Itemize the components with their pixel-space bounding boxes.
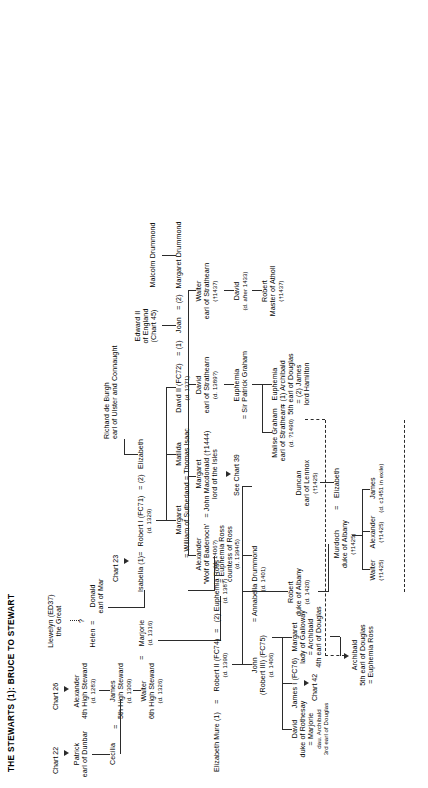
node-margaret-drummond: Margaret Drummond: [176, 218, 184, 292]
sibling-bar-mure: [242, 487, 243, 665]
margaret-drummond-name: Margaret Drummond: [176, 218, 184, 292]
chart-canvas: THE STEWARTS (1): BRUCE TO STEWART Chart…: [0, 0, 428, 788]
node-annabella-drummond: = Annabella Drummond (d. 1401): [252, 528, 267, 622]
robert-ii-death: (d. 1390): [222, 634, 229, 696]
link-richard-to-elizabeth-h: [124, 439, 125, 455]
node-alexander-4th-steward: Alexander 4th High Steward (d. 1283): [74, 658, 97, 724]
chart-ref-26-arrow: [64, 686, 69, 692]
node-margaret-galloway: Margaret lady of Galloway = Archibald 4t…: [292, 598, 324, 676]
dashed-link-arrow: [344, 653, 349, 659]
node-malcolm-drummond: Malcolm Drummond: [150, 218, 158, 292]
node-marjorie: Marjorie (d. 1316): [139, 612, 154, 654]
patrick-dunbar-title: earl of Dunbar: [82, 725, 90, 783]
murdoch-albany-death: (†1425): [350, 510, 357, 578]
margaret-galloway-spouse-title: 4th earl of Douglas: [316, 598, 324, 676]
node-helen: Helen: [90, 626, 98, 650]
james-exile-name: James: [370, 456, 378, 520]
node-james-5th-steward: James 5th High Steward (d. 1309): [110, 658, 133, 724]
alexander-badenoch-epithet: 'Wolf of Badenoch': [204, 518, 212, 590]
sibling-bar-robert-iii: [282, 638, 283, 730]
walter-6th-steward-death: (d. 1326): [157, 660, 164, 722]
cecilia-name: Cecilia: [110, 734, 118, 774]
node-robert-i: Robert I (FC71) (d. 1329): [138, 492, 153, 550]
link-robert-albany-to-murdoch-v: [318, 591, 328, 592]
chart-ref-39[interactable]: See Chart 39: [233, 454, 241, 496]
link-robert-ii-mure-down: [232, 664, 242, 665]
isabella-name: Isabella (1): [138, 556, 146, 592]
annabella-drummond-death: (d. 1401): [260, 536, 267, 622]
node-walter-6th-steward: Walter 6th High Steward (d. 1326): [141, 660, 164, 722]
robert-atholl-death: (†1437): [278, 250, 285, 332]
david-strathearn-death: (d. 1389?): [212, 352, 219, 418]
donald-mar-title: earl of Mar: [98, 572, 106, 620]
page-title: THE STEWARTS (1): BRUCE TO STEWART: [7, 594, 16, 772]
node-robert-ii: Robert II (FC74) (d. 1390): [214, 634, 229, 696]
eq-robert-elizabeth: = (2): [138, 472, 146, 492]
node-elizabeth-de-burgh: Elizabeth: [138, 436, 146, 472]
chart-ref-42[interactable]: Chart 42: [311, 674, 319, 701]
node-james-exile: James (d. c1451 in exile): [370, 456, 385, 520]
link-patrick-to-cecilia: [92, 754, 110, 755]
annabella-drummond-name: = Annabella Drummond: [252, 528, 260, 622]
alexander-4th-steward-death: (d. 1283): [90, 658, 97, 724]
eq-robert-euphemia: =: [214, 626, 222, 635]
link-john-robert-iii-down: [272, 637, 282, 638]
malcolm-drummond-name: Malcolm Drummond: [150, 218, 158, 292]
link-to-robert-albany: [242, 591, 252, 592]
node-euphemia-hamilton: Euphemia = (1) Archibald 5th earl of Dou…: [272, 348, 312, 420]
eq-david-joan: = (1): [176, 337, 184, 359]
node-alexander-badenoch: Alexander 'Wolf of Badenoch' (d. 1406?) …: [196, 518, 241, 590]
link-to-margaret-macdonald: [242, 486, 252, 487]
eq-mure-robert: =: [214, 697, 222, 706]
marjorie-death: (d. 1316): [147, 612, 154, 654]
duncan-lennox-title: earl of Lennox: [304, 450, 312, 516]
chart-ref-23[interactable]: Chart 23: [112, 555, 120, 582]
eq-walter-marjorie: =: [139, 653, 147, 662]
margaret-macdonald-spouse-title: lord of the Isles: [212, 430, 220, 518]
joan-name: Joan: [176, 312, 184, 338]
link-murdoch-down: [352, 535, 362, 536]
john-robert-iii-death: (d. 1406): [268, 622, 275, 708]
node-donald-mar: Donald earl of Mar: [90, 572, 106, 620]
david-after-1433-death: (d. after 1433): [242, 256, 249, 326]
node-elizabeth-mure: Elizabeth Mure (1): [214, 704, 222, 780]
node-edward-ii: Edward II of England (Chart 45): [135, 298, 159, 354]
eq-joan-margaret: = (2): [176, 291, 184, 313]
murdoch-albany-title: duke of Albany: [342, 510, 350, 578]
node-llewelyn: Llewelyn (ED37) the Great: [48, 590, 64, 652]
node-murdoch-albany: Murdoch duke of Albany (†1425): [334, 510, 357, 578]
elizabeth-de-burgh-name: Elizabeth: [138, 436, 146, 472]
node-margaret-sutherland: Margaret = William of Sutherland: [176, 482, 192, 558]
david-after-1433-name: David: [234, 256, 242, 326]
david-rothesay-spouse-father-title: 3rd earl of Douglas: [323, 686, 330, 772]
link-marjorie-to-robert-ii-v: [158, 640, 220, 641]
robert-ii-name: Robert II (FC74): [214, 634, 222, 696]
robert-i-name: Robert I (FC71): [138, 492, 146, 550]
archibald-douglas5-spouse: = Euphemia Ross: [368, 614, 376, 696]
chart-ref-22-arrow: [64, 750, 69, 756]
node-isabella: Isabella (1): [138, 556, 146, 592]
eq-murdoch-elizabeth: =: [334, 503, 342, 512]
robert-i-death: (d. 1329): [146, 492, 153, 550]
chart-ref-22[interactable]: Chart 22: [52, 747, 60, 774]
sibling-bar-murdoch: [362, 490, 363, 570]
node-matilda: Matilda = Thomas Isaac: [176, 425, 192, 483]
node-patrick-dunbar: Patrick earl of Dunbar: [74, 725, 90, 783]
link-robert-albany-stem: [252, 591, 288, 592]
node-elizabeth-lennox: Elizabeth: [334, 462, 342, 504]
elizabeth-lennox-name: Elizabeth: [334, 462, 342, 504]
node-walter-strathearn: Walter earl of Strathearn (†1437): [196, 258, 219, 324]
link-euphemia-graham-down: [252, 384, 262, 385]
walter-6th-steward-title: 6th High Steward: [149, 660, 157, 722]
sibling-bar-graham: [262, 385, 263, 433]
chart-ref-42-arrow: [304, 680, 309, 686]
eq-cecilia-walter: =: [113, 722, 121, 731]
john-robert-iii-regnal: (Robert III) (FC75): [260, 622, 268, 708]
david-ii-name: David II (FC72): [176, 358, 184, 418]
node-joan: Joan: [176, 312, 184, 338]
chart-ref-26[interactable]: Chart 26: [52, 683, 60, 710]
helen-name: Helen: [90, 626, 98, 650]
duncan-lennox-death: (†1425): [312, 450, 319, 516]
richard-de-burgh-title: earl of Ulster and Connaught: [112, 329, 120, 439]
node-david-after-1433: David (d. after 1433): [234, 256, 249, 326]
